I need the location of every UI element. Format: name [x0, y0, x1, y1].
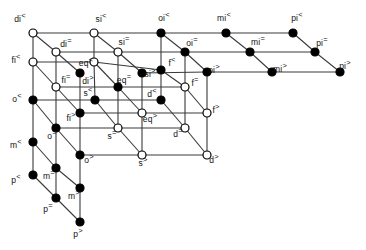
lattice-node-pilt[interactable] — [289, 29, 297, 37]
lattice-edge — [56, 168, 80, 188]
lattice-edge — [56, 198, 80, 222]
lattice-edge — [185, 87, 207, 113]
lattice-edge — [185, 128, 207, 155]
lattice-node-dieq[interactable] — [52, 48, 60, 56]
lattice-node-sigt[interactable] — [138, 69, 146, 77]
lattice-node-oigt[interactable] — [203, 68, 211, 76]
lattice-node-fgt[interactable] — [203, 109, 211, 117]
lattice-node-mlt[interactable] — [29, 138, 37, 146]
lattice-node-digt[interactable] — [76, 69, 84, 77]
lattice-graph — [0, 0, 366, 250]
lattice-edge — [118, 128, 142, 155]
lattice-edge — [33, 100, 56, 128]
lattice-node-silt[interactable] — [90, 29, 98, 37]
lattice-node-dgt[interactable] — [203, 151, 211, 159]
lattice-node-oilt[interactable] — [157, 29, 165, 37]
lattice-node-peq[interactable] — [52, 194, 60, 202]
lattice-edge — [33, 175, 56, 198]
lattice-node-eqlt[interactable] — [90, 58, 98, 66]
lattice-edge — [315, 52, 340, 72]
lattice-node-deq[interactable] — [181, 124, 189, 132]
lattice-edge — [94, 62, 95, 100]
lattice-edge — [33, 142, 56, 168]
lattice-node-slt[interactable] — [91, 96, 99, 104]
lattice-edge — [94, 62, 161, 70]
lattice-node-mgt[interactable] — [76, 184, 84, 192]
lattice-node-fieq[interactable] — [52, 83, 60, 91]
lattice-node-dlt[interactable] — [157, 96, 165, 104]
lattice-node-ogt[interactable] — [76, 151, 84, 159]
lattice-node-oieq[interactable] — [181, 48, 189, 56]
lattice-edge — [33, 62, 56, 87]
lattice-node-figt[interactable] — [76, 109, 84, 117]
lattice-node-pgt[interactable] — [76, 218, 84, 226]
lattice-node-flt[interactable] — [157, 66, 165, 74]
lattice-node-seq[interactable] — [114, 124, 122, 132]
lattice-edge — [161, 100, 185, 128]
lattice-figure: di<si<oi<mi<pi<di=si=oi=mi=pi=fi<eq<f<si… — [0, 0, 366, 250]
lattice-node-feq[interactable] — [181, 83, 189, 91]
lattice-node-migt[interactable] — [268, 68, 276, 76]
lattice-node-mieq[interactable] — [246, 48, 254, 56]
lattice-node-sieq[interactable] — [114, 48, 122, 56]
lattice-node-eqgt[interactable] — [138, 109, 146, 117]
lattice-node-oeq[interactable] — [52, 124, 60, 132]
lattice-edge — [95, 100, 118, 128]
lattice-node-milt[interactable] — [222, 29, 230, 37]
lattice-node-plt[interactable] — [29, 171, 37, 179]
lattice-node-eqeq[interactable] — [114, 83, 122, 91]
lattice-edge — [94, 62, 118, 87]
lattice-edge — [118, 52, 142, 73]
lattice-node-filt[interactable] — [29, 58, 37, 66]
lattice-node-pigt[interactable] — [336, 68, 344, 76]
lattice-node-sgt[interactable] — [138, 151, 146, 159]
lattice-node-olt[interactable] — [29, 96, 37, 104]
lattice-node-dilt[interactable] — [29, 29, 37, 37]
lattice-edge — [56, 128, 80, 155]
lattice-edge — [142, 72, 207, 73]
lattice-node-pieq[interactable] — [311, 48, 319, 56]
lattice-node-meq[interactable] — [52, 164, 60, 172]
